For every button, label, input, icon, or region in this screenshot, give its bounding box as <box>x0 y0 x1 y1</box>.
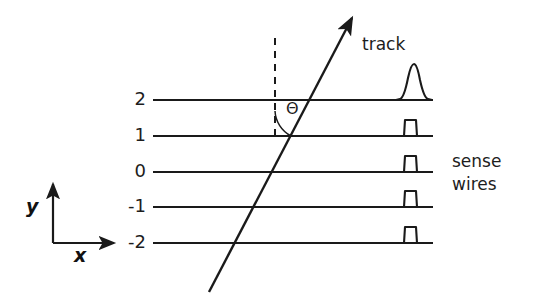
sense-wires-label-line-2: wires <box>452 173 501 196</box>
x-axis-label: x <box>74 245 86 266</box>
y-axis-label: y <box>26 196 38 217</box>
wire-label-2: 2 <box>104 89 146 108</box>
pulse-wire-2-wide <box>396 64 432 100</box>
theta-angle-label: Θ <box>286 99 299 118</box>
wire-label-minus-1: -1 <box>104 196 146 215</box>
pulse-wire-minus1-narrow <box>399 191 423 207</box>
sense-wires-label-line-1: sense <box>452 150 501 173</box>
wire-label-1: 1 <box>104 125 146 144</box>
pulse-wire-minus2-narrow <box>399 227 423 243</box>
wire-label-0: 0 <box>104 161 146 180</box>
pulse-wire-0-narrow <box>399 156 423 172</box>
sense-wires-label: sense wires <box>452 150 501 196</box>
sense-wire-lines <box>153 100 433 243</box>
diagram-figure: 2 1 0 -1 -2 y x track Θ sense wires <box>0 0 542 302</box>
signal-pulses <box>396 64 432 243</box>
track-line <box>209 18 352 292</box>
pulse-wire-1-narrow <box>399 120 423 136</box>
wire-label-minus-2: -2 <box>104 232 146 251</box>
track-label: track <box>362 35 405 53</box>
